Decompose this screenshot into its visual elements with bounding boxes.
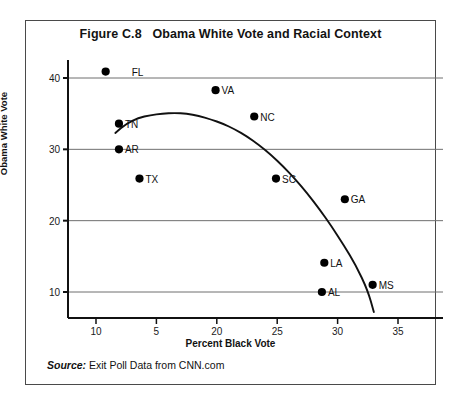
point-label-ar: AR — [125, 144, 139, 155]
data-point-sc — [272, 174, 280, 182]
data-point-nc — [250, 112, 258, 120]
x-axis-title: Percent Black Vote — [25, 338, 436, 349]
point-label-tx: TX — [145, 173, 158, 184]
y-axis-title: Obama White Vote — [0, 74, 9, 194]
data-point-va — [211, 86, 219, 94]
data-point-al — [318, 288, 326, 296]
point-label-la: LA — [330, 257, 342, 268]
x-tick-label: 20 — [211, 326, 222, 337]
data-point-la — [320, 259, 328, 267]
data-point-ar — [115, 145, 123, 153]
point-label-ms: MS — [379, 279, 394, 290]
point-label-va: VA — [222, 85, 235, 96]
trend-curve — [115, 113, 374, 312]
x-tick-label: 10 — [90, 326, 101, 337]
point-label-fl: FL — [132, 66, 144, 77]
data-point-ms — [369, 281, 377, 289]
x-tick-label: 30 — [332, 326, 343, 337]
x-tick-label: 5 — [154, 326, 160, 337]
data-point-tx — [135, 174, 143, 182]
data-point-ga — [341, 195, 349, 203]
y-tick-label: 30 — [49, 144, 60, 155]
source-note: Source: Exit Poll Data from CNN.com — [47, 359, 224, 371]
data-point-tn — [115, 120, 123, 128]
source-label: Source: — [47, 359, 86, 371]
point-label-ga: GA — [351, 194, 365, 205]
point-label-tn: TN — [125, 118, 138, 129]
point-label-nc: NC — [260, 111, 274, 122]
point-label-sc: SC — [282, 173, 296, 184]
data-point-fl — [102, 67, 110, 75]
figure-title: Figure C.8 Obama White Vote and Racial C… — [25, 27, 436, 41]
figure-container: Figure C.8 Obama White Vote and Racial C… — [0, 0, 463, 406]
point-label-al: AL — [328, 287, 340, 298]
x-tick-label: 25 — [272, 326, 283, 337]
x-tick-label: 35 — [392, 326, 403, 337]
y-tick-label: 10 — [49, 287, 60, 298]
y-tick-label: 40 — [49, 73, 60, 84]
y-tick-label: 20 — [49, 215, 60, 226]
source-text: Exit Poll Data from CNN.com — [86, 359, 224, 371]
